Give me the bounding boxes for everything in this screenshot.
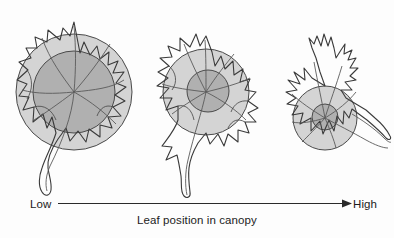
axis-label-high: High bbox=[353, 198, 377, 210]
axis-caption: Leaf position in canopy bbox=[0, 214, 394, 226]
leaf-high bbox=[286, 34, 391, 150]
leaf-low bbox=[16, 22, 132, 195]
axis-arrow-head bbox=[342, 200, 352, 208]
axis-arrow bbox=[58, 200, 352, 208]
leaf-mid bbox=[157, 34, 258, 197]
leaf-mid-inner-disc bbox=[187, 70, 229, 112]
leaf-diagram-svg bbox=[0, 0, 394, 238]
axis-label-low: Low bbox=[30, 198, 51, 210]
figure-canvas: Low High Leaf position in canopy bbox=[0, 0, 394, 238]
